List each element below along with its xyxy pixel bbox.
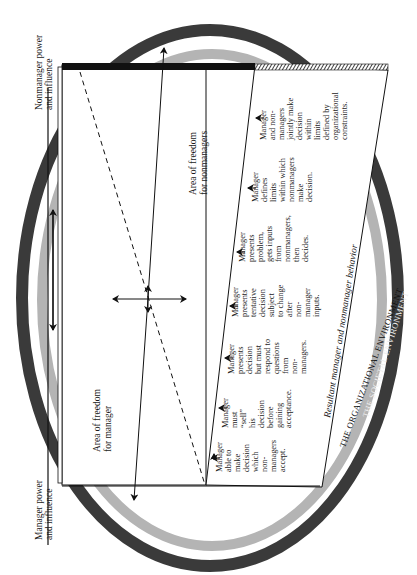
svg-text:for manager: for manager [103, 405, 113, 452]
behavior-text: Manager presents tentative decision subj… [231, 283, 321, 317]
svg-text:and influence: and influence [44, 489, 54, 540]
nonmanager-power-label: Nonmanager power and influence [34, 34, 54, 110]
behavior-4: Manager presents tentative decision subj… [231, 283, 321, 317]
leadership-continuum-diagram: Nonmanager power and influence Manager p… [0, 0, 417, 575]
svg-text:and influence: and influence [44, 59, 54, 110]
power-rectangle [58, 65, 206, 485]
svg-text:Area of freedom: Area of freedom [92, 389, 102, 452]
svg-text:Nonmanager power: Nonmanager power [34, 34, 44, 110]
svg-text:Area of freedom: Area of freedom [188, 132, 198, 195]
svg-text:Manager power: Manager power [34, 479, 44, 540]
top-band [62, 63, 388, 70]
manager-power-label: Manager power and influence [34, 479, 54, 540]
area-nonmanagers-label: Area of freedom for nonmanagers [188, 131, 209, 195]
svg-text:for nonmanagers: for nonmanagers [199, 131, 209, 195]
